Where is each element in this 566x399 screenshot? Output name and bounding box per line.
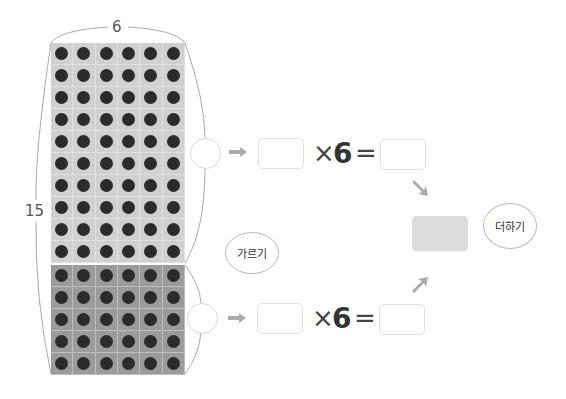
dot	[77, 157, 90, 170]
dot	[167, 313, 180, 326]
top-multiplicand-box[interactable]	[258, 138, 304, 169]
factor-six: 6	[333, 139, 352, 169]
dot	[55, 245, 68, 258]
grid-cell	[96, 131, 118, 153]
dot	[55, 69, 68, 82]
dot	[100, 135, 113, 148]
grid-cell	[163, 153, 185, 175]
dot	[77, 291, 90, 304]
grid-cell	[163, 353, 185, 375]
dot	[167, 113, 180, 126]
grid-cell	[51, 265, 73, 287]
dot	[55, 201, 68, 214]
grid-cell	[163, 197, 185, 219]
dot	[144, 69, 157, 82]
dot	[144, 269, 157, 282]
dot	[77, 135, 90, 148]
sum-result-box[interactable]	[412, 216, 468, 251]
grid-cell	[140, 219, 162, 241]
dot	[144, 223, 157, 236]
grid-cell	[51, 109, 73, 131]
grid-cell	[96, 109, 118, 131]
grid-cell	[140, 287, 162, 309]
dot	[55, 335, 68, 348]
grid-cell	[51, 131, 73, 153]
grid-cell	[96, 287, 118, 309]
grid-cell	[51, 241, 73, 263]
dot	[144, 201, 157, 214]
grid-cell	[163, 265, 185, 287]
arrow-up-right-icon	[412, 275, 430, 293]
grid-cell	[96, 265, 118, 287]
dot	[77, 69, 90, 82]
grid-cell	[96, 43, 118, 65]
grid-cell	[73, 287, 95, 309]
dot	[167, 201, 180, 214]
grid-cell	[163, 43, 185, 65]
grid-cell	[51, 153, 73, 175]
grid-cell	[140, 241, 162, 263]
dot	[144, 47, 157, 60]
grid-cell	[73, 197, 95, 219]
grid-cell	[73, 43, 95, 65]
grid-cell	[73, 309, 95, 331]
dot	[144, 179, 157, 192]
arrow-down-right-icon	[412, 180, 430, 198]
grid-cell	[73, 265, 95, 287]
dot	[100, 91, 113, 104]
grid-cell	[96, 309, 118, 331]
dot	[167, 69, 180, 82]
arrow-right-icon	[228, 313, 246, 323]
grid-cell	[118, 131, 140, 153]
dot	[122, 335, 135, 348]
dot	[100, 313, 113, 326]
grid-cell	[163, 175, 185, 197]
dot	[100, 113, 113, 126]
grid-cell	[96, 175, 118, 197]
grid-cell	[118, 331, 140, 353]
grid-cell	[96, 65, 118, 87]
grid-cell	[51, 175, 73, 197]
grid-cell	[73, 219, 95, 241]
dot	[167, 335, 180, 348]
height-label: 15	[25, 202, 44, 220]
dot	[100, 245, 113, 258]
grid-cell	[118, 109, 140, 131]
top-rows-count-circle[interactable]	[190, 138, 221, 169]
grid-cell	[163, 87, 185, 109]
dot	[122, 113, 135, 126]
width-label: 6	[112, 18, 122, 36]
bottom-rows-count-circle[interactable]	[187, 303, 218, 334]
grid-cell	[73, 87, 95, 109]
dot	[122, 69, 135, 82]
dot	[55, 157, 68, 170]
add-speech-bubble: 더하기	[483, 203, 537, 249]
top-product-box[interactable]	[380, 139, 426, 170]
grid-cell	[140, 331, 162, 353]
grid-cell	[96, 197, 118, 219]
dot	[77, 335, 90, 348]
dot	[122, 313, 135, 326]
dot	[122, 291, 135, 304]
grid-cell	[51, 287, 73, 309]
grid-cell	[118, 309, 140, 331]
dot	[100, 291, 113, 304]
dot	[144, 91, 157, 104]
dot	[144, 113, 157, 126]
dot	[55, 47, 68, 60]
bottom-multiplicand-box[interactable]	[257, 303, 303, 334]
dot	[100, 179, 113, 192]
dot	[122, 91, 135, 104]
grid-cell	[118, 219, 140, 241]
dot	[100, 47, 113, 60]
bottom-product-box[interactable]	[379, 304, 425, 335]
grid-cell	[163, 309, 185, 331]
grid-cell	[118, 353, 140, 375]
equals-sign: =	[354, 303, 376, 333]
dot	[77, 47, 90, 60]
dot	[77, 357, 90, 370]
grid-cell	[51, 353, 73, 375]
grid-cell	[73, 175, 95, 197]
dot	[100, 157, 113, 170]
grid-cell	[140, 309, 162, 331]
